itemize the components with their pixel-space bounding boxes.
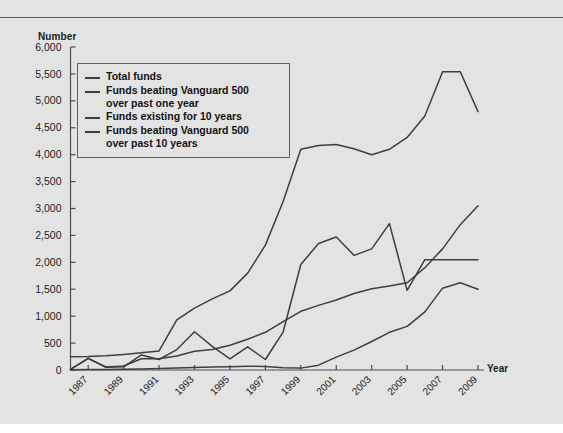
legend-label: Funds existing for 10 years: [106, 110, 242, 123]
y-tick-label: 0: [56, 364, 62, 376]
legend-label: Total funds: [106, 70, 162, 83]
legend-item: Funds beating Vanguard 500 over past one…: [85, 84, 281, 109]
x-tick-label: 1987: [66, 373, 90, 397]
y-tick-label: 2,500: [35, 229, 61, 241]
legend-item: Total funds: [85, 70, 281, 83]
legend-label: Funds beating Vanguard 500 over past 10 …: [106, 124, 249, 149]
y-tick-label: 500: [44, 337, 62, 349]
legend-swatch-existing-10-years: [85, 111, 100, 123]
x-tick-label: 1989: [102, 373, 126, 397]
x-tick-label: 1991: [137, 373, 161, 397]
legend-item: Funds existing for 10 years: [85, 110, 281, 123]
chart-page: Number Year 6,0005,5005,0004,5004,0003,5…: [0, 0, 563, 433]
x-tick-label: 1993: [172, 373, 196, 397]
y-tick-label: 6,000: [35, 41, 61, 53]
legend-swatch-beating-one-year: [85, 85, 100, 97]
y-tick-label: 1,500: [35, 283, 61, 295]
legend-swatch-total-funds: [85, 71, 100, 83]
x-tick-label: 2001: [314, 373, 338, 397]
x-tick-label: 2003: [350, 373, 374, 397]
chart-legend: Total funds Funds beating Vanguard 500 o…: [77, 63, 290, 158]
page-bottom-margin: [0, 424, 563, 433]
x-tick-label: 1999: [279, 373, 303, 397]
x-tick-label: 1997: [243, 373, 267, 397]
y-tick-label: 4,500: [35, 121, 61, 133]
y-tick-label: 5,000: [35, 94, 61, 106]
y-tick-label: 4,000: [35, 148, 61, 160]
x-tick-label: 2009: [456, 373, 480, 397]
y-tick-label: 1,000: [35, 310, 61, 322]
legend-label: Funds beating Vanguard 500 over past one…: [106, 84, 249, 109]
y-tick-label: 3,000: [35, 202, 61, 214]
legend-swatch-beating-10-years: [85, 125, 100, 137]
x-tick-label: 2007: [420, 373, 444, 397]
y-tick-label: 2,000: [35, 256, 61, 268]
legend-item: Funds beating Vanguard 500 over past 10 …: [85, 124, 281, 149]
y-tick-label: 5,500: [35, 68, 61, 80]
series-line: [71, 224, 479, 370]
x-tick-label: 2005: [385, 373, 409, 397]
y-tick-label: 3,500: [35, 175, 61, 187]
x-tick-label-group: 1987198919911993199519971999200120032005…: [66, 373, 480, 397]
x-tick-label: 1995: [208, 373, 232, 397]
y-tick-label-group: 6,0005,5005,0004,5004,0003,5003,0002,500…: [35, 41, 61, 376]
